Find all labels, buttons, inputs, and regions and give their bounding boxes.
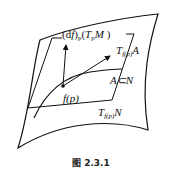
label-point: f(p) — [63, 92, 79, 105]
diagram: (df)p(TpM ) Tf(p)A A⊂N f(p) Tf(p)N 图 2.3… — [0, 0, 180, 176]
label-subset: A⊂N — [109, 74, 134, 86]
figure: (df)p(TpM ) Tf(p)A A⊂N f(p) Tf(p)N 图 2.3… — [0, 0, 180, 176]
vector-up — [63, 45, 66, 86]
point-fp — [61, 84, 65, 88]
label-image-plane: (df)p(TpM ) — [62, 28, 111, 42]
vector-tangent — [63, 56, 110, 86]
label-tangent-N: Tf(p)N — [98, 106, 122, 120]
label-tangent-A: Tf(p)A — [116, 44, 139, 58]
caption: 图 2.3.1 — [72, 158, 110, 168]
